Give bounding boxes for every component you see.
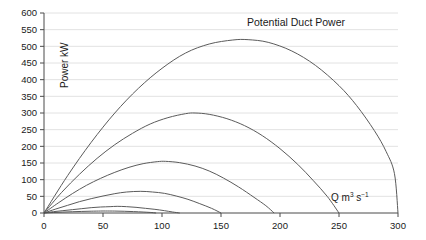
- chart-title: Potential Duct Power: [247, 16, 346, 28]
- x-axis-label-base: Q m: [331, 192, 350, 203]
- y-tick-label: 50: [26, 191, 37, 202]
- svg-text:Q m3 s−1: Q m3 s−1: [331, 191, 369, 203]
- y-tick-labels: 050100150200250300350400450500550600: [21, 7, 37, 218]
- data-curves: [44, 39, 398, 213]
- y-tick-label: 400: [21, 74, 37, 85]
- chart-container: 050100150200250300350400450500550600 050…: [0, 0, 426, 240]
- y-tick-label: 200: [21, 141, 37, 152]
- x-tick-label: 150: [213, 220, 229, 231]
- y-tick-label: 450: [21, 57, 37, 68]
- y-tick-label: 100: [21, 174, 37, 185]
- y-tick-label: 150: [21, 157, 37, 168]
- y-tick-label: 300: [21, 107, 37, 118]
- x-tick-label: 50: [98, 220, 109, 231]
- curve-curve-1: [44, 39, 398, 213]
- x-tick-label: 250: [331, 220, 347, 231]
- y-tick-label: 500: [21, 41, 37, 52]
- chart-plot: 050100150200250300350400450500550600 050…: [0, 0, 426, 240]
- y-tick-label: 550: [21, 24, 37, 35]
- x-tick-label: 200: [272, 220, 288, 231]
- x-tick-labels: 050100150200250300: [41, 220, 406, 231]
- gridlines: [44, 13, 398, 196]
- x-tick-label: 300: [390, 220, 406, 231]
- x-tick-label: 0: [41, 220, 46, 231]
- y-tick-label: 350: [21, 91, 37, 102]
- y-axis-label: Power kW: [59, 42, 70, 88]
- x-axis-label-mid: s: [354, 192, 362, 203]
- y-tick-label: 0: [32, 207, 37, 218]
- axes: [40, 13, 398, 217]
- x-axis-label: Q m3 s−1: [331, 191, 369, 203]
- x-axis-label-exp-minus1: −1: [361, 191, 369, 198]
- y-tick-label: 600: [21, 7, 37, 18]
- x-tick-label: 100: [154, 220, 170, 231]
- curve-curve-3: [44, 161, 274, 213]
- y-tick-label: 250: [21, 124, 37, 135]
